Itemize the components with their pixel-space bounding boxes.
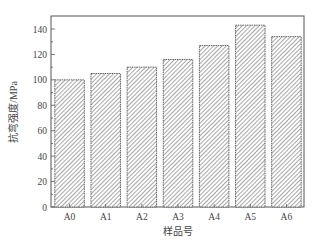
y-tick-label: 60 — [38, 126, 48, 136]
x-tick-label: A6 — [281, 212, 293, 222]
y-tick-label: 20 — [38, 177, 48, 187]
x-tick-label: A4 — [208, 212, 220, 222]
plot-area: 020406080100120140A0A1A2A3A4A5A6 — [33, 16, 304, 222]
x-tick-label: A2 — [136, 212, 148, 222]
bar-a3 — [163, 60, 193, 207]
y-tick-label: 140 — [33, 25, 48, 35]
y-tick-label: 120 — [33, 50, 48, 60]
bar-a4 — [199, 46, 229, 207]
bar-chart: 020406080100120140A0A1A2A3A4A5A6 抗弯强度/MP… — [0, 0, 318, 250]
bar-a1 — [91, 74, 121, 208]
bar-a0 — [55, 80, 84, 207]
y-tick-label: 100 — [33, 75, 48, 85]
x-tick-label: A1 — [100, 212, 112, 222]
x-tick-label: A3 — [172, 212, 184, 222]
bar-a5 — [236, 25, 265, 207]
y-tick-label: 0 — [42, 203, 47, 213]
bar-a2 — [127, 67, 157, 207]
y-tick-label: 40 — [38, 152, 48, 162]
x-tick-label: A0 — [64, 212, 76, 222]
bar-a6 — [272, 37, 302, 207]
y-tick-label: 80 — [38, 101, 48, 111]
x-tick-label: A5 — [244, 212, 256, 222]
y-axis-label: 抗弯强度/MPa — [7, 81, 19, 143]
x-axis-label: 样品号 — [163, 225, 193, 237]
